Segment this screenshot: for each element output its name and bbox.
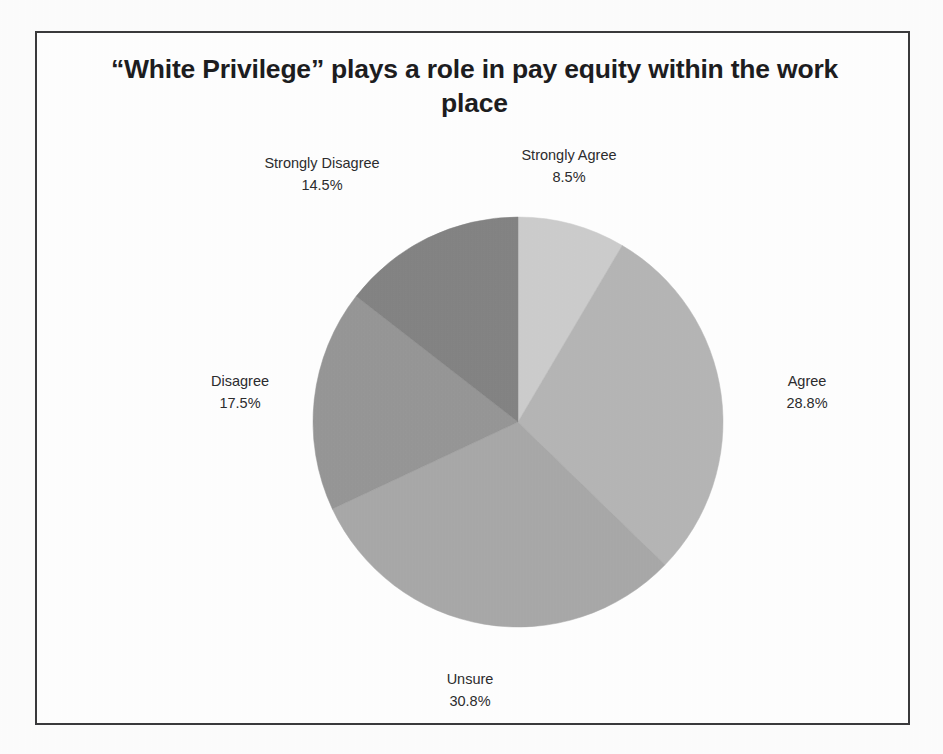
pie-label-agree-percent: 28.8% [737, 393, 877, 415]
pie-label-strongly-disagree-name: Strongly Disagree [217, 153, 427, 175]
pie-label-agree: Agree 28.8% [737, 371, 877, 415]
pie-label-disagree-name: Disagree [165, 371, 315, 393]
pie-label-unsure-percent: 30.8% [385, 691, 555, 713]
pie-slice-group [313, 217, 723, 627]
pie-label-disagree-percent: 17.5% [165, 393, 315, 415]
pie-label-strongly-disagree-percent: 14.5% [217, 175, 427, 197]
pie-label-strongly-agree-name: Strongly Agree [479, 145, 659, 167]
pie-label-strongly-agree: Strongly Agree 8.5% [479, 145, 659, 189]
pie-label-agree-name: Agree [737, 371, 877, 393]
pie-label-disagree: Disagree 17.5% [165, 371, 315, 415]
chart-frame: “White Privilege” plays a role in pay eq… [35, 31, 910, 725]
pie-chart-area: Strongly Agree 8.5% Agree 28.8% Unsure 3… [37, 33, 908, 723]
pie-label-strongly-disagree: Strongly Disagree 14.5% [217, 153, 427, 197]
pie-label-unsure: Unsure 30.8% [385, 669, 555, 713]
pie-label-strongly-agree-percent: 8.5% [479, 167, 659, 189]
pie-label-unsure-name: Unsure [385, 669, 555, 691]
